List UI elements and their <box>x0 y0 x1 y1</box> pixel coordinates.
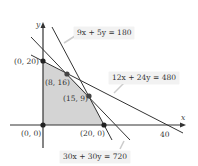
leader-30x <box>120 141 124 149</box>
vertex-point-0-0 <box>40 122 45 127</box>
vertex-label-15-9: (15, 9) <box>63 95 88 103</box>
x-axis-label: x <box>181 114 185 122</box>
vertex-label-0-0: (0, 0) <box>21 130 41 138</box>
equation-label-30x-30y: 30x + 30y = 720 <box>60 151 130 163</box>
vertex-label-0-20: (0, 20) <box>14 58 39 66</box>
x-tick-40: 40 <box>160 131 170 139</box>
vertex-point-8-16 <box>64 71 69 76</box>
vertex-point-0-20 <box>40 58 45 63</box>
equation-label-9x-5y: 9x + 5y = 180 <box>74 27 134 39</box>
lp-diagram: y x 40 (0, 20) (8, 16) (15, 9) (0, 0) (2… <box>0 0 198 166</box>
vertex-label-20-0: (20, 0) <box>80 130 105 138</box>
y-axis-label: y <box>36 21 40 29</box>
feasible-region <box>43 61 104 125</box>
leader-12x <box>114 83 124 93</box>
equation-label-12x-24y: 12x + 24y = 480 <box>109 72 179 84</box>
vertex-point-20-0 <box>101 122 106 127</box>
y-axis-arrow-icon <box>41 22 46 28</box>
vertex-label-8-16: (8, 16) <box>45 79 70 87</box>
x-axis-arrow-icon <box>180 123 186 128</box>
